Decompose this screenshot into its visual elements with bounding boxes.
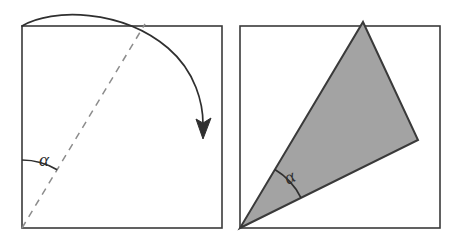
figure-canvas: α α <box>0 0 463 246</box>
geometry-figure: α α <box>0 0 463 246</box>
left-square-outline <box>22 26 222 228</box>
fold-arrow <box>22 15 211 139</box>
fold-arrow-curve <box>22 15 203 124</box>
left-panel: α <box>22 15 222 228</box>
right-panel: α <box>240 22 440 228</box>
folded-triangle <box>240 22 418 228</box>
left-alpha-label: α <box>39 149 50 170</box>
left-dashed-diagonal <box>22 24 145 228</box>
